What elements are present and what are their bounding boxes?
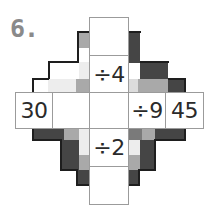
pixel <box>76 79 89 92</box>
pixel <box>64 128 79 140</box>
cell-center[interactable] <box>89 92 129 129</box>
pixel <box>61 140 79 170</box>
outline <box>184 78 186 92</box>
outline <box>76 184 89 186</box>
cell-v4-divide-2[interactable]: ÷2 <box>89 128 129 167</box>
pixel <box>79 62 89 79</box>
pixel <box>48 79 78 92</box>
outline <box>60 139 62 171</box>
pixel <box>128 32 140 63</box>
pixel <box>77 170 89 185</box>
pixel <box>138 79 168 92</box>
pixel <box>140 140 155 170</box>
outline <box>48 62 50 79</box>
cell-v1[interactable] <box>89 17 129 56</box>
pixel <box>79 155 89 170</box>
pixel <box>78 33 89 48</box>
pixel <box>168 79 185 92</box>
pixel <box>128 128 142 140</box>
cell-h1-30[interactable]: 30 <box>15 92 53 129</box>
outline <box>128 31 141 33</box>
outline <box>154 139 186 141</box>
cell-h4-divide-9[interactable]: ÷9 <box>128 92 166 129</box>
outline <box>128 184 140 186</box>
pixel <box>79 128 89 155</box>
outline <box>32 79 34 92</box>
outline <box>77 32 79 62</box>
pixel <box>128 79 138 92</box>
cell-v5[interactable] <box>89 166 129 205</box>
outline <box>77 31 89 33</box>
cell-h5-45[interactable]: 45 <box>165 92 204 129</box>
pixel <box>128 155 140 170</box>
outline <box>32 139 62 141</box>
pixel <box>128 140 140 155</box>
outline <box>32 78 49 80</box>
cell-h2[interactable] <box>52 92 90 129</box>
puzzle-number-label: 6. <box>10 16 38 41</box>
pixel <box>140 62 168 79</box>
cell-v2-divide-4[interactable]: ÷4 <box>89 55 129 93</box>
outline <box>154 139 156 171</box>
outline <box>140 61 169 63</box>
outline <box>139 169 156 171</box>
outline <box>48 61 79 63</box>
